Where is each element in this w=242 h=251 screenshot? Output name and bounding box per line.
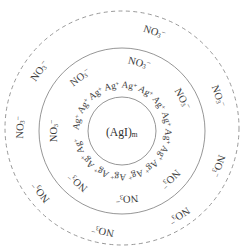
stern-counter-ion-label: NO3−: [115, 192, 139, 210]
ion-base: NO: [210, 83, 226, 101]
ion-base: NO: [14, 123, 26, 139]
ion-base: Ag: [71, 117, 83, 130]
ion-base: Ag: [114, 171, 126, 182]
adsorbed-ion-label: Ag+: [66, 113, 85, 131]
ion-superscript: +: [164, 140, 172, 145]
adsorbed-ion-label: Ag+: [102, 75, 121, 94]
diffuse-counter-ion-label: NO3−: [10, 116, 27, 139]
adsorbed-ion-label: Ag+: [121, 74, 139, 92]
ion-superscript: +: [72, 114, 81, 119]
core-formula-base: (AgI): [106, 126, 132, 139]
ion-superscript: −: [47, 120, 56, 124]
core-formula-subscript: m: [132, 130, 138, 139]
colloid-diagram: Ag+Ag+Ag+Ag+Ag+Ag+Ag+Ag+Ag+Ag+Ag+Ag+Ag+A…: [0, 0, 242, 251]
ion-base: NO: [123, 193, 139, 205]
adsorbed-ion-label: Ag+: [161, 128, 179, 145]
ion-superscript: +: [110, 174, 115, 182]
ion-superscript: −: [90, 227, 96, 237]
ion-superscript: −: [14, 116, 23, 121]
core-formula-label: (AgI)m: [106, 123, 138, 139]
stern-counter-ion-label: NO3−: [44, 120, 60, 142]
ion-base: NO: [48, 127, 59, 142]
ion-base: NO: [98, 225, 115, 239]
adsorbed-ion-label: Ag+: [110, 170, 127, 187]
ion-subscript: 3: [52, 124, 59, 127]
ion-superscript: −: [116, 197, 121, 206]
